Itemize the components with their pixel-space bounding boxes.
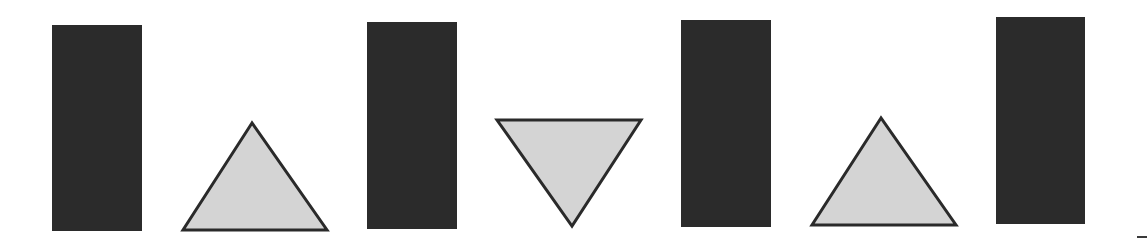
edge-dash-mark (1137, 236, 1147, 238)
triangle-up-1 (183, 123, 327, 230)
dark-rectangle-1 (52, 25, 142, 231)
dark-rectangle-4 (996, 17, 1085, 224)
dark-rectangle-2 (367, 22, 457, 229)
triangle-down-1 (497, 120, 641, 226)
triangle-up-2 (812, 118, 956, 225)
pattern-canvas (0, 0, 1147, 247)
shape-sequence (0, 0, 1147, 247)
dark-rectangle-3 (681, 20, 771, 227)
